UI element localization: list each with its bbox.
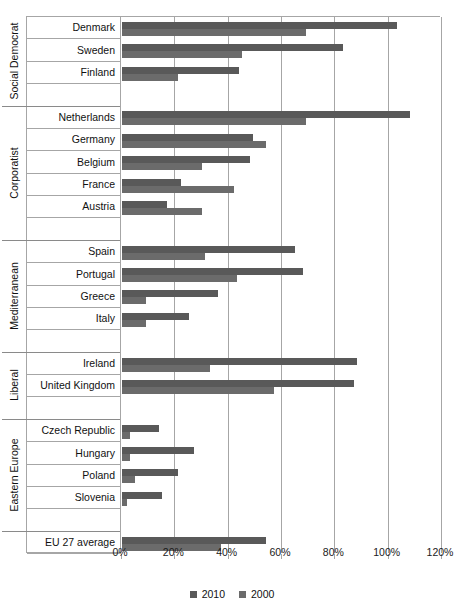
bar-2010 <box>122 156 250 163</box>
legend-item[interactable]: 2000 <box>239 588 274 600</box>
category-label: Austria <box>27 196 121 218</box>
bar-2010 <box>122 179 181 186</box>
category-label: Ireland <box>27 353 121 375</box>
legend-label: 2000 <box>251 588 274 600</box>
group-label-text: Corporatist <box>8 147 20 198</box>
legend-item[interactable]: 2010 <box>190 588 225 600</box>
category-label: Finland <box>27 62 121 84</box>
category-spacer <box>27 397 121 419</box>
bar-2010 <box>122 380 354 387</box>
bar-2000 <box>122 141 266 148</box>
bar-2010 <box>122 22 397 29</box>
group-label: Social Democrat <box>2 16 26 106</box>
category-label: Spain <box>27 241 121 263</box>
category-spacer <box>27 330 121 352</box>
category-label: Denmark <box>27 17 121 39</box>
bar-2000 <box>122 499 127 506</box>
gridline <box>388 17 389 553</box>
group-label-column: Social DemocratCorporatistMediterraneanL… <box>2 16 26 553</box>
legend-swatch <box>190 591 197 598</box>
gridline <box>334 17 335 553</box>
category-label: EU 27 average <box>27 532 121 554</box>
category-label: Italy <box>27 308 121 330</box>
bar-2010 <box>122 425 159 432</box>
group-separator <box>2 240 120 241</box>
bar-2010 <box>122 268 303 275</box>
bar-2000 <box>122 51 242 58</box>
bar-2000 <box>122 186 234 193</box>
category-label: Slovenia <box>27 487 121 509</box>
group-label: Liberal <box>2 352 26 419</box>
gridline <box>281 17 282 553</box>
bar-2000 <box>122 118 306 125</box>
x-tick-label: 40% <box>216 546 237 558</box>
group-label-text: Mediterranean <box>8 262 20 330</box>
bar-2010 <box>122 358 357 365</box>
x-tick-label: 0% <box>112 546 127 558</box>
group-label: Corporatist <box>2 106 26 240</box>
group-label-text: Social Democrat <box>8 22 20 99</box>
category-label-column: DenmarkSwedenFinlandNetherlandsGermanyBe… <box>26 16 120 553</box>
bar-2010 <box>122 134 253 141</box>
bar-2010 <box>122 201 167 208</box>
x-tick-label: 60% <box>269 546 290 558</box>
group-label: Mediterranean <box>2 240 26 352</box>
x-tick-label: 20% <box>163 546 184 558</box>
bar-2010 <box>122 44 343 51</box>
legend-label: 2010 <box>202 588 225 600</box>
x-tick-label: 100% <box>373 546 400 558</box>
category-label: Sweden <box>27 39 121 61</box>
category-label: Greece <box>27 286 121 308</box>
group-separator <box>2 419 120 420</box>
group-label-text: Liberal <box>8 369 20 401</box>
bar-2000 <box>122 387 274 394</box>
bar-2010 <box>122 537 266 544</box>
bar-2000 <box>122 253 205 260</box>
group-label: Eastern Europe <box>2 419 26 531</box>
legend-swatch <box>239 591 246 598</box>
category-label: Czech Republic <box>27 420 121 442</box>
group-label-text: Eastern Europe <box>8 438 20 511</box>
bar-2000 <box>122 74 178 81</box>
group-separator <box>2 352 120 353</box>
bar-2010 <box>122 469 178 476</box>
chart-legend: 20102000 <box>0 588 464 600</box>
category-label: Hungary <box>27 442 121 464</box>
bar-2000 <box>122 454 130 461</box>
gridline <box>441 17 442 553</box>
bar-2010 <box>122 290 218 297</box>
gridline <box>228 17 229 553</box>
group-separator <box>2 531 120 532</box>
group-separator <box>2 106 120 107</box>
bar-2010 <box>122 111 410 118</box>
x-tick-label: 80% <box>323 546 344 558</box>
bar-2010 <box>122 67 239 74</box>
category-label: France <box>27 174 121 196</box>
plot-area <box>120 16 440 553</box>
category-spacer <box>27 509 121 531</box>
bar-2010 <box>122 492 162 499</box>
category-label: United Kingdom <box>27 375 121 397</box>
bar-2000 <box>122 29 306 36</box>
bar-2010 <box>122 313 189 320</box>
x-tick-label: 120% <box>427 546 454 558</box>
bar-2000 <box>122 163 202 170</box>
bar-2000 <box>122 320 146 327</box>
bar-2010 <box>122 246 295 253</box>
bar-2000 <box>122 208 202 215</box>
category-label: Portugal <box>27 263 121 285</box>
category-label: Belgium <box>27 151 121 173</box>
bar-2000 <box>122 275 237 282</box>
bar-chart: Social DemocratCorporatistMediterraneanL… <box>0 0 464 612</box>
category-label: Poland <box>27 465 121 487</box>
bar-2000 <box>122 476 135 483</box>
bar-2000 <box>122 432 130 439</box>
bar-2000 <box>122 365 210 372</box>
category-label: Germany <box>27 129 121 151</box>
category-label: Netherlands <box>27 107 121 129</box>
bar-2000 <box>122 297 146 304</box>
bar-2010 <box>122 447 194 454</box>
category-spacer <box>27 84 121 106</box>
category-spacer <box>27 218 121 240</box>
